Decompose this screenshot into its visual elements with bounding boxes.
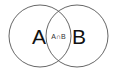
set-a-label: A (32, 25, 46, 48)
intersection-label: A∩B (51, 33, 66, 40)
set-b-label: B (72, 25, 86, 48)
venn-diagram: A B A∩B (0, 0, 114, 72)
